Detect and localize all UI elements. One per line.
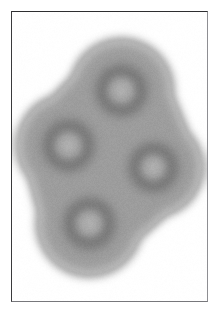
plate-inner <box>12 12 207 301</box>
figure-root <box>0 0 222 317</box>
specimen-image <box>12 12 207 301</box>
plate-frame <box>11 11 208 302</box>
